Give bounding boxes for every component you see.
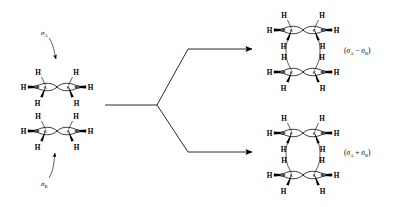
hydrogen-label: H <box>319 157 325 165</box>
carbon-label: C <box>313 70 316 75</box>
sigma-a-annotation: σA <box>41 29 56 59</box>
reactant-ethylene-bottom: H H H H H H C C <box>21 113 94 153</box>
sigma-a-symbol: σA <box>41 29 48 38</box>
orbital-interaction-diagram: σA H H H H H H C C H H H <box>0 0 401 207</box>
reactant-group: σA H H H H H H C C H H H <box>21 29 94 189</box>
carbon-label: C <box>67 85 70 90</box>
hydrogen-label: H <box>319 115 325 123</box>
sigma-b-symbol: σB <box>41 180 48 189</box>
product-antisymmetric: H H H H H H C C H H H H H H C C ( <box>267 12 371 94</box>
carbon-label: C <box>290 28 293 33</box>
sigma-b-pointer <box>49 153 55 178</box>
product2-ethylene-top: H H H H H H C C <box>267 115 340 155</box>
hydrogen-label: H <box>281 188 287 196</box>
hydrogen-label: H <box>281 12 287 20</box>
hydrogen-label: H <box>88 128 94 136</box>
hydrogen-label: H <box>281 85 287 93</box>
carbon-label: C <box>44 129 47 134</box>
hydrogen-label: H <box>320 188 326 196</box>
hydrogen-label: H <box>320 146 326 154</box>
hydrogen-label: H <box>35 113 41 121</box>
hydrogen-label: H <box>320 85 326 93</box>
hydrogen-label: H <box>281 43 287 51</box>
carbon-label: C <box>290 70 293 75</box>
hydrogen-label: H <box>35 100 41 108</box>
hydrogen-label: H <box>320 43 326 51</box>
product-symmetric: H H H H H H C C H H H H H H C C ( <box>267 115 371 197</box>
product1-ethylene-top: H H H H H H C C <box>267 12 340 52</box>
hydrogen-label: H <box>21 84 27 92</box>
hydrogen-label: H <box>35 144 41 152</box>
carbon-label: C <box>313 28 316 33</box>
hydrogen-label: H <box>334 130 340 138</box>
hydrogen-label: H <box>73 113 79 121</box>
carbon-label: C <box>290 131 293 136</box>
diagram-canvas: σA H H H H H H C C H H H <box>0 0 401 207</box>
hydrogen-label: H <box>281 54 287 62</box>
transformation-arrows <box>105 49 252 152</box>
carbon-label: C <box>44 85 47 90</box>
carbon-label: C <box>290 173 293 178</box>
hydrogen-label: H <box>35 69 41 77</box>
antisymmetric-combination-label: (σA − σB) <box>344 46 371 56</box>
carbon-label: C <box>313 173 316 178</box>
reactant-ethylene-top: H H H H H H C C <box>21 69 94 109</box>
hydrogen-label: H <box>281 157 287 165</box>
product2-ethylene-bottom: H H H H H H C C <box>267 157 340 197</box>
hydrogen-label: H <box>319 12 325 20</box>
hydrogen-label: H <box>74 144 80 152</box>
symmetric-combination-label: (σA + σB) <box>344 148 371 158</box>
hydrogen-label: H <box>73 69 79 77</box>
arrow-to-symmetric <box>157 105 252 152</box>
arrow-to-antisymmetric <box>157 49 252 105</box>
sigma-b-annotation: σB <box>41 153 55 189</box>
hydrogen-label: H <box>281 115 287 123</box>
sigma-a-pointer <box>49 38 56 59</box>
hydrogen-label: H <box>74 100 80 108</box>
carbon-label: C <box>67 129 70 134</box>
product1-ethylene-bottom: H H H H H H C C <box>267 54 340 94</box>
hydrogen-label: H <box>267 69 273 77</box>
hydrogen-label: H <box>88 84 94 92</box>
hydrogen-label: H <box>334 172 340 180</box>
hydrogen-label: H <box>319 54 325 62</box>
hydrogen-label: H <box>267 172 273 180</box>
hydrogen-label: H <box>267 130 273 138</box>
hydrogen-label: H <box>334 27 340 35</box>
hydrogen-label: H <box>267 27 273 35</box>
hydrogen-label: H <box>21 128 27 136</box>
hydrogen-label: H <box>281 146 287 154</box>
carbon-label: C <box>313 131 316 136</box>
hydrogen-label: H <box>334 69 340 77</box>
